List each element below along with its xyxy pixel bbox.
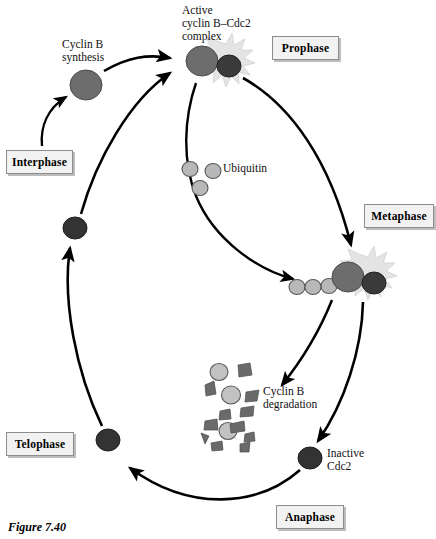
node-inactive-cdc2-interphase	[63, 217, 87, 239]
ubiquitin-released-2	[222, 386, 241, 404]
label-ubiquitin: Ubiquitin	[223, 162, 267, 175]
node-cyclin-b-synthesis	[70, 70, 102, 100]
phase-label-interphase[interactable]: Interphase	[6, 150, 73, 174]
cyclin-b-circle	[186, 46, 218, 76]
cyclin-b-circle-metaphase	[332, 262, 364, 292]
ubiquitin-chain-2	[305, 280, 321, 295]
ubiquitin-chain-1	[289, 280, 305, 295]
arrow-interphase-to-synthesis	[42, 97, 66, 146]
cdc2-circle	[217, 55, 241, 77]
arrow-telophase-to-interphase	[68, 248, 102, 426]
phase-label-anaphase[interactable]: Anaphase	[276, 505, 344, 529]
node-inactive-cdc2-telophase	[96, 429, 120, 451]
arrow-synthesis-to-active-complex	[104, 56, 170, 71]
node-ubiquitin-cluster	[182, 162, 221, 196]
arrow-metaphase-to-inactive-cdc2	[318, 302, 363, 441]
node-inactive-cdc2-anaphase	[298, 447, 322, 469]
arrow-anaphase-to-telophase	[130, 468, 300, 499]
label-cyclin-b-synthesis: Cyclin B synthesis	[62, 38, 104, 64]
arrow-metaphase-to-degradation	[282, 300, 332, 385]
label-inactive-cdc2: Inactive Cdc2	[327, 447, 364, 473]
phase-label-prophase[interactable]: Prophase	[272, 36, 339, 60]
phase-label-telophase[interactable]: Telophase	[6, 432, 74, 456]
ubiquitin-released-1	[210, 364, 228, 381]
cdc2-circle-metaphase	[362, 272, 386, 294]
cell-cycle-figure: Cyclin B synthesis Active cyclin B–Cdc2 …	[0, 0, 436, 539]
cell-cycle-diagram-svg	[0, 0, 436, 539]
phase-label-metaphase[interactable]: Metaphase	[364, 204, 434, 228]
label-cyclin-b-degradation: Cyclin B degradation	[263, 385, 317, 411]
node-cyclin-b-degradation-cluster	[201, 363, 259, 452]
figure-caption: Figure 7.40	[8, 520, 66, 535]
label-active-cyclin-b-cdc2-complex: Active cyclin B–Cdc2 complex	[182, 4, 251, 43]
node-ubiquitinated-complex-metaphase	[289, 246, 397, 300]
